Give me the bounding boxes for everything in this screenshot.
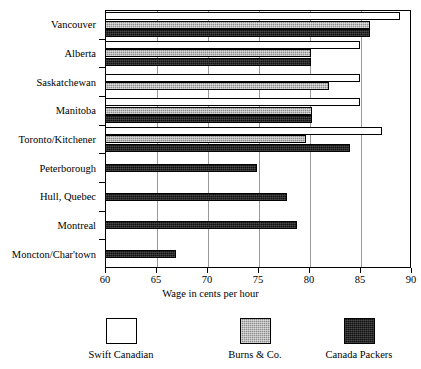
y-axis-tick: [99, 182, 105, 183]
y-axis-tick-label: Alberta: [65, 48, 97, 59]
x-axis-tick: [156, 268, 157, 273]
y-axis-tick-label: Saskatchewan: [37, 76, 96, 87]
bar-group: [105, 182, 411, 211]
x-axis-tick: [411, 268, 412, 273]
bar-swift: [105, 74, 360, 82]
y-axis-tick-label: Moncton/Char'town: [12, 248, 96, 259]
y-axis-tick: [99, 211, 105, 212]
y-axis-tick: [99, 96, 105, 97]
bar-packers: [105, 29, 370, 37]
x-axis-tick-label: 60: [100, 274, 111, 286]
bar-swift: [105, 127, 382, 135]
x-axis-tick-label: 80: [304, 274, 315, 286]
legend-swatch-swift: [106, 318, 137, 344]
x-axis-tick-label: 85: [355, 274, 366, 286]
x-axis-tick: [309, 268, 310, 273]
y-axis-tick-label: Manitoba: [56, 105, 96, 116]
bar-packers: [105, 250, 176, 258]
bar-burns: [105, 82, 329, 90]
y-axis-tick: [99, 239, 105, 240]
bar-packers: [105, 144, 350, 152]
legend-swatch-burns: [240, 318, 271, 344]
legend-label: Swift Canadian: [66, 349, 176, 360]
y-axis-tick: [99, 67, 105, 68]
legend-item: Swift Canadian: [66, 318, 176, 360]
x-axis-tick: [105, 268, 106, 273]
x-axis-tick-label: 65: [151, 274, 162, 286]
bar-chart: VancouverAlbertaSaskatchewanManitobaToro…: [0, 0, 421, 369]
bar-packers: [105, 58, 311, 66]
bar-group: [105, 125, 411, 154]
y-axis-tick: [99, 153, 105, 154]
legend-label: Burns & Co.: [200, 349, 310, 360]
bar-packers: [105, 221, 297, 229]
bar-group: [105, 10, 411, 39]
y-axis-tick-label: Peterborough: [39, 162, 96, 173]
legend-label: Canada Packers: [304, 349, 414, 360]
bar-swift: [105, 12, 400, 20]
bar-packers: [105, 193, 287, 201]
bar-packers: [105, 115, 312, 123]
y-axis-tick-label: Hull, Quebec: [40, 191, 96, 202]
y-axis-tick-label: Toronto/Kitchener: [19, 134, 96, 145]
y-axis-tick: [99, 125, 105, 126]
bar-group: [105, 153, 411, 182]
bar-group: [105, 239, 411, 268]
bar-burns: [105, 107, 312, 115]
bar-packers: [105, 164, 257, 172]
bar-swift: [105, 41, 360, 49]
y-axis-tick-label: Montreal: [58, 220, 97, 231]
bar-group: [105, 67, 411, 96]
bar-burns: [105, 135, 306, 143]
x-axis-tick-label: 90: [406, 274, 417, 286]
bar-group: [105, 96, 411, 125]
bar-burns: [105, 21, 370, 29]
x-axis-tick: [258, 268, 259, 273]
y-axis-tick: [99, 39, 105, 40]
legend-item: Burns & Co.: [200, 318, 310, 360]
bar-group: [105, 211, 411, 240]
x-axis-tick: [207, 268, 208, 273]
bar-group: [105, 39, 411, 68]
y-axis-tick-label: Vancouver: [51, 19, 96, 30]
y-axis-labels: VancouverAlbertaSaskatchewanManitobaToro…: [0, 10, 105, 268]
bar-swift: [105, 98, 360, 106]
x-axis-tick-label: 75: [253, 274, 264, 286]
bar-groups: [105, 10, 411, 268]
bar-burns: [105, 49, 311, 57]
legend-item: Canada Packers: [304, 318, 414, 360]
legend-swatch-packers: [344, 318, 375, 344]
x-axis-title: Wage in cents per hour: [0, 288, 421, 299]
chart-legend: Swift CanadianBurns & Co.Canada Packers: [0, 318, 421, 369]
x-axis-tick: [360, 268, 361, 273]
x-axis-tick-label: 70: [202, 274, 213, 286]
